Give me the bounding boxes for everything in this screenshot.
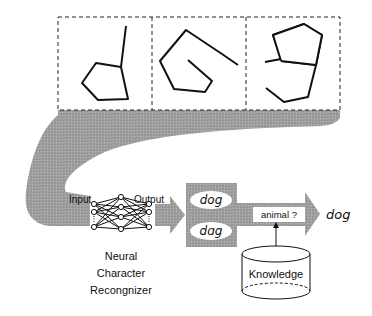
input-label: Input (69, 194, 91, 205)
diagram-canvas: Input Output Neural Character Recongnize… (0, 0, 372, 316)
knowledge-database-icon: Knowledge (242, 246, 310, 299)
caption-line-1: Neural (105, 250, 137, 262)
result-label: dog (326, 207, 350, 222)
knowledge-label: Knowledge (249, 268, 303, 280)
candidate-2: dɑg (200, 224, 223, 238)
caption-line-3: Recongnizer (90, 284, 152, 296)
candidate-1: dog (200, 193, 223, 207)
caption-line-2: Character (97, 267, 146, 279)
query-label: animal ? (261, 209, 297, 220)
